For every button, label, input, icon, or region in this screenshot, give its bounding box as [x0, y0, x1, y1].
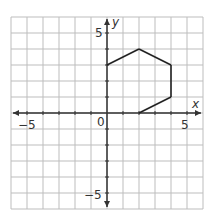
axis-labels: x y 0 −5 5 5 −5 — [18, 15, 200, 202]
y-axis-arrow-up-icon — [104, 19, 110, 25]
y-axis-arrow-down-icon — [104, 201, 110, 207]
x-tick-label-5: 5 — [181, 118, 189, 132]
coordinate-grid: x y 0 −5 5 5 −5 — [0, 0, 215, 223]
axes — [13, 19, 201, 207]
y-tick-label-5: 5 — [95, 26, 103, 40]
x-axis-label: x — [191, 97, 200, 111]
y-tick-label-neg5: −5 — [84, 188, 102, 202]
x-tick-label-neg5: −5 — [18, 118, 36, 132]
origin-label: 0 — [97, 115, 105, 129]
y-axis-label: y — [111, 15, 120, 29]
x-axis-arrow-left-icon — [13, 110, 19, 116]
